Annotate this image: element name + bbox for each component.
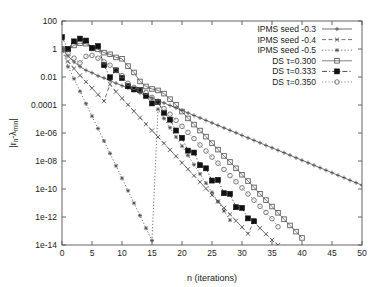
legend: IPMS seed -0.3IPMS seed -0.4IPMS seed -0… [257, 24, 352, 87]
x-tick-label: 20 [177, 248, 187, 258]
legend-label-5: DS τ=0.350 [272, 77, 316, 87]
plot-frame [62, 21, 362, 245]
legend-label-4: DS τ=0.333 [272, 66, 316, 76]
x-tick-label: 0 [60, 248, 65, 258]
x-tick-label: 35 [267, 248, 277, 258]
series-layer [60, 35, 365, 247]
x-axis: 05101520253035404550 [60, 21, 367, 258]
y-tick-label: 100 [43, 16, 57, 26]
convergence-log-plot: 0510152025303540455010010.010.00011e-061… [0, 0, 378, 287]
y-tick-label: 1e-08 [35, 156, 57, 166]
y-tick-label: 1e-06 [35, 128, 57, 138]
x-tick-label: 10 [117, 248, 127, 258]
y-tick-label: 0.0001 [31, 100, 57, 110]
y-tick-label: 0.01 [40, 72, 57, 82]
y-tick-label: 1e-12 [35, 212, 57, 222]
legend-label-3: DS τ=0.300 [272, 56, 316, 66]
x-tick-label: 50 [357, 248, 367, 258]
x-tick-label: 30 [237, 248, 247, 258]
x-tick-label: 15 [147, 248, 157, 258]
x-tick-label: 45 [327, 248, 337, 258]
y-tick-label: 1 [52, 44, 57, 54]
x-tick-label: 5 [90, 248, 95, 258]
y-axis-title: |rn-λmin| [8, 118, 19, 147]
legend-label-1: IPMS seed -0.4 [257, 35, 316, 45]
x-tick-label: 25 [207, 248, 217, 258]
series-2 [60, 47, 232, 243]
legend-label-0: IPMS seed -0.3 [257, 24, 316, 34]
x-axis-title: n (iterations) [187, 273, 237, 283]
chart-figure: 0510152025303540455010010.010.00011e-061… [0, 0, 378, 287]
x-tick-label: 40 [297, 248, 307, 258]
y-tick-label: 1e-14 [35, 240, 57, 250]
legend-label-2: IPMS seed -0.5 [257, 45, 316, 55]
y-tick-label: 1e-10 [35, 184, 57, 194]
